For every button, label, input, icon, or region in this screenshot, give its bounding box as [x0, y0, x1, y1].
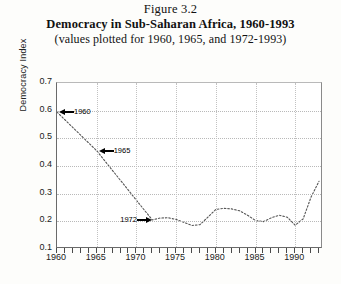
y-tick-label: 0.4: [28, 159, 52, 169]
arrow-right-icon: [146, 217, 152, 223]
arrow-tail: [105, 150, 114, 152]
point-annotation-1972: 1972: [120, 216, 152, 224]
y-axis-tick-labels: 0.10.20.30.40.50.60.7: [24, 82, 52, 248]
y-tick-label: 0.3: [28, 187, 52, 197]
gridline-vertical: [256, 83, 257, 247]
point-annotation-1965: 1965: [99, 147, 131, 155]
annotation-label: 1960: [74, 108, 91, 116]
arrow-tail: [65, 111, 74, 113]
figure-heading: Figure 3.2 Democracy in Sub-Saharan Afri…: [0, 2, 341, 47]
arrow-tail: [137, 219, 146, 221]
y-tick-label: 0.6: [28, 104, 52, 114]
annotation-label: 1972: [120, 216, 137, 224]
point-annotation-1960: 1960: [59, 108, 91, 116]
y-tick-label: 0.5: [28, 131, 52, 141]
gridline-vertical: [97, 83, 98, 247]
gridline-vertical: [176, 83, 177, 247]
gridline-vertical: [216, 83, 217, 247]
gridline-vertical: [295, 83, 296, 247]
figure-subtitle: (values plotted for 1960, 1965, and 1972…: [0, 32, 341, 47]
x-axis-tick-labels: 1960196519701975198019851990: [56, 252, 322, 266]
plot-area: 196019651972: [56, 82, 322, 248]
figure-number: Figure 3.2: [0, 2, 341, 16]
figure-title: Democracy in Sub-Saharan Africa, 1960-19…: [0, 16, 341, 32]
y-tick-label: 0.1: [28, 242, 52, 252]
y-tick-label: 0.7: [28, 76, 52, 86]
y-tick-label: 0.2: [28, 214, 52, 224]
annotation-label: 1965: [114, 147, 131, 155]
figure-container: Figure 3.2 Democracy in Sub-Saharan Afri…: [0, 0, 341, 284]
